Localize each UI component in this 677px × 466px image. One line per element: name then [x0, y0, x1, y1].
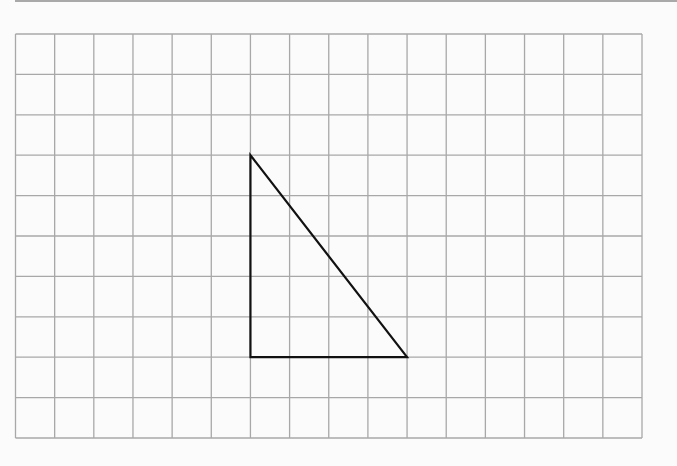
square-grid	[16, 34, 643, 438]
grid-diagram	[0, 0, 677, 466]
